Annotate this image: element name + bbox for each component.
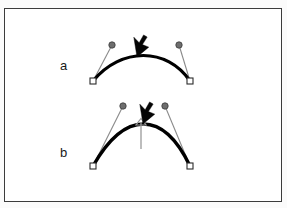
panel-a-anchor-start[interactable] <box>90 78 96 84</box>
panel-a <box>90 32 193 84</box>
panel-a-bezier-curve[interactable] <box>93 56 190 82</box>
bezier-illustration-canvas <box>0 0 287 208</box>
panel-a-control-dot-left[interactable] <box>109 42 115 48</box>
panel-b-control-dot-right[interactable] <box>162 103 168 109</box>
panel-a-mouse-pointer-icon <box>128 32 153 57</box>
panel-b-mouse-pointer-icon <box>134 99 159 124</box>
panel-a-anchor-end[interactable] <box>187 78 193 84</box>
figure-screenshot: a b <box>0 0 287 208</box>
panel-b-anchor-end[interactable] <box>187 163 193 169</box>
panel-b-anchor-start[interactable] <box>90 163 96 169</box>
panel-b-drag-up-arrow-icon <box>136 119 146 150</box>
figure-label-b: b <box>60 146 67 159</box>
panel-a-control-dot-right[interactable] <box>176 42 182 48</box>
figure-label-a: a <box>60 59 67 72</box>
panel-b <box>90 99 193 169</box>
panel-b-control-dot-left[interactable] <box>120 103 126 109</box>
